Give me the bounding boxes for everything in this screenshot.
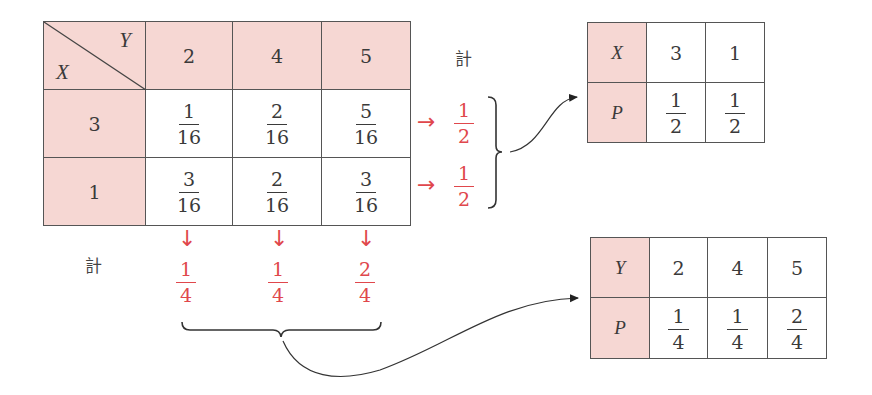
x-value: 3 [647, 23, 706, 83]
col-header: 4 [233, 22, 322, 90]
col-total-value: 24 [355, 260, 375, 305]
col-header: 2 [146, 22, 233, 90]
row-totals-brace [488, 97, 502, 208]
y-prob-label: P [591, 298, 650, 359]
col-var-label: Y [119, 28, 131, 53]
y-var-label: Y [591, 238, 650, 298]
y-value: 5 [768, 238, 827, 298]
x-prob: 12 [706, 83, 765, 143]
y-value: 2 [650, 238, 708, 298]
y-prob: 14 [708, 298, 768, 359]
table-row: 3 116 216 516 [44, 90, 411, 158]
y-distribution-table: Y 2 4 5 P 14 14 24 [590, 237, 827, 359]
row-total-value: 12 [454, 101, 474, 146]
row-header: 3 [44, 90, 146, 158]
col-total-value: 14 [176, 260, 196, 305]
col-totals-brace [182, 322, 381, 337]
x-distribution-table: X 3 1 P 12 12 [587, 22, 765, 143]
y-prob: 14 [650, 298, 708, 359]
down-arrow-icon: ↓ [178, 228, 196, 250]
joint-cell: 316 [146, 158, 233, 226]
table-row: 1 316 216 316 [44, 158, 411, 226]
down-arrow-icon: ↓ [270, 228, 288, 250]
right-arrow-icon: → [417, 111, 435, 133]
joint-cell: 316 [322, 158, 411, 226]
x-var-label: X [588, 23, 647, 83]
col-total-label: 計 [85, 252, 102, 277]
row-total-value: 12 [454, 164, 474, 209]
row-total-label: 計 [455, 45, 472, 70]
y-value: 4 [708, 238, 768, 298]
right-arrow-icon: → [417, 174, 435, 196]
y-prob: 24 [768, 298, 827, 359]
corner-cell: Y X [44, 22, 146, 90]
x-value: 1 [706, 23, 765, 83]
joint-cell: 116 [146, 90, 233, 158]
x-prob-label: P [588, 83, 647, 143]
row-header: 1 [44, 158, 146, 226]
joint-distribution-table: Y X 2 4 5 3 116 216 516 1 316 216 316 [43, 21, 411, 226]
joint-cell: 216 [233, 158, 322, 226]
row-var-label: X [56, 60, 69, 85]
y-connector-arrow [283, 298, 578, 376]
joint-cell: 516 [322, 90, 411, 158]
down-arrow-icon: ↓ [357, 228, 375, 250]
col-header: 5 [322, 22, 411, 90]
col-total-value: 14 [268, 260, 288, 305]
x-connector-arrow [510, 97, 577, 152]
x-prob: 12 [647, 83, 706, 143]
joint-cell: 216 [233, 90, 322, 158]
